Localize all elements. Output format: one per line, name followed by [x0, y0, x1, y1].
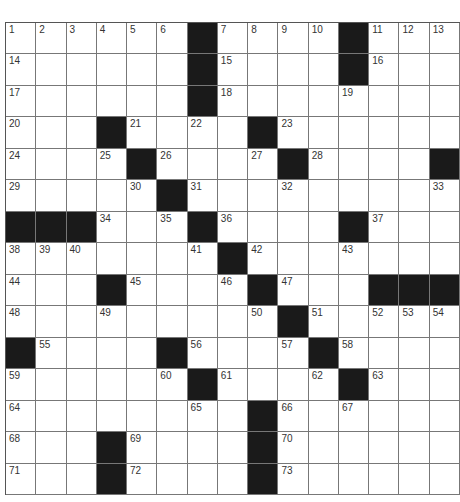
grid-cell[interactable]	[278, 369, 308, 400]
grid-cell[interactable]: 3	[67, 23, 97, 54]
grid-cell[interactable]	[430, 86, 460, 117]
grid-cell[interactable]	[97, 180, 127, 211]
grid-cell[interactable]	[369, 338, 399, 369]
grid-cell[interactable]	[309, 243, 339, 274]
grid-cell[interactable]	[218, 180, 248, 211]
grid-cell[interactable]: 6	[157, 23, 187, 54]
grid-cell[interactable]	[218, 117, 248, 148]
grid-cell[interactable]: 70	[278, 432, 308, 463]
grid-cell[interactable]	[339, 464, 369, 495]
grid-cell[interactable]	[309, 117, 339, 148]
grid-cell[interactable]: 16	[369, 54, 399, 85]
grid-cell[interactable]: 45	[127, 275, 157, 306]
grid-cell[interactable]	[97, 54, 127, 85]
grid-cell[interactable]: 50	[248, 306, 278, 337]
grid-cell[interactable]	[127, 306, 157, 337]
grid-cell[interactable]	[430, 54, 460, 85]
grid-cell[interactable]	[36, 306, 66, 337]
grid-cell[interactable]: 13	[430, 23, 460, 54]
grid-cell[interactable]: 73	[278, 464, 308, 495]
grid-cell[interactable]: 23	[278, 117, 308, 148]
grid-cell[interactable]: 56	[188, 338, 218, 369]
grid-cell[interactable]	[67, 306, 97, 337]
grid-cell[interactable]: 63	[369, 369, 399, 400]
grid-cell[interactable]: 26	[157, 149, 187, 180]
grid-cell[interactable]: 7	[218, 23, 248, 54]
grid-cell[interactable]	[309, 86, 339, 117]
grid-cell[interactable]	[97, 86, 127, 117]
grid-cell[interactable]	[248, 54, 278, 85]
grid-cell[interactable]: 38	[6, 243, 36, 274]
grid-cell[interactable]	[369, 117, 399, 148]
grid-cell[interactable]: 60	[157, 369, 187, 400]
grid-cell[interactable]	[399, 86, 429, 117]
grid-cell[interactable]	[218, 432, 248, 463]
grid-cell[interactable]	[97, 243, 127, 274]
grid-cell[interactable]	[309, 180, 339, 211]
grid-cell[interactable]: 12	[399, 23, 429, 54]
grid-cell[interactable]: 40	[67, 243, 97, 274]
grid-cell[interactable]	[67, 149, 97, 180]
grid-cell[interactable]	[430, 369, 460, 400]
grid-cell[interactable]	[369, 86, 399, 117]
grid-cell[interactable]: 36	[218, 212, 248, 243]
grid-cell[interactable]	[399, 117, 429, 148]
grid-cell[interactable]: 28	[309, 149, 339, 180]
grid-cell[interactable]	[157, 401, 187, 432]
grid-cell[interactable]	[97, 401, 127, 432]
grid-cell[interactable]: 61	[218, 369, 248, 400]
grid-cell[interactable]: 9	[278, 23, 308, 54]
grid-cell[interactable]: 67	[339, 401, 369, 432]
grid-cell[interactable]	[369, 432, 399, 463]
grid-cell[interactable]	[399, 54, 429, 85]
grid-cell[interactable]	[36, 369, 66, 400]
grid-cell[interactable]	[127, 338, 157, 369]
grid-cell[interactable]: 15	[218, 54, 248, 85]
grid-cell[interactable]	[218, 464, 248, 495]
grid-cell[interactable]	[127, 369, 157, 400]
grid-cell[interactable]	[369, 464, 399, 495]
grid-cell[interactable]	[430, 464, 460, 495]
grid-cell[interactable]	[157, 86, 187, 117]
grid-cell[interactable]	[188, 306, 218, 337]
grid-cell[interactable]: 59	[6, 369, 36, 400]
grid-cell[interactable]	[188, 149, 218, 180]
grid-cell[interactable]	[67, 54, 97, 85]
grid-cell[interactable]	[67, 86, 97, 117]
grid-cell[interactable]: 39	[36, 243, 66, 274]
grid-cell[interactable]	[67, 401, 97, 432]
grid-cell[interactable]	[218, 149, 248, 180]
grid-cell[interactable]: 55	[36, 338, 66, 369]
grid-cell[interactable]	[157, 432, 187, 463]
grid-cell[interactable]	[399, 212, 429, 243]
grid-cell[interactable]	[36, 117, 66, 148]
grid-cell[interactable]	[399, 464, 429, 495]
grid-cell[interactable]: 24	[6, 149, 36, 180]
grid-cell[interactable]	[36, 86, 66, 117]
grid-cell[interactable]	[399, 243, 429, 274]
grid-cell[interactable]: 37	[369, 212, 399, 243]
grid-cell[interactable]	[127, 401, 157, 432]
grid-cell[interactable]	[157, 243, 187, 274]
grid-cell[interactable]: 51	[309, 306, 339, 337]
grid-cell[interactable]: 44	[6, 275, 36, 306]
grid-cell[interactable]	[36, 180, 66, 211]
grid-cell[interactable]	[278, 54, 308, 85]
grid-cell[interactable]: 48	[6, 306, 36, 337]
grid-cell[interactable]	[399, 401, 429, 432]
grid-cell[interactable]	[309, 54, 339, 85]
grid-cell[interactable]: 46	[218, 275, 248, 306]
grid-cell[interactable]	[97, 369, 127, 400]
grid-cell[interactable]	[430, 401, 460, 432]
grid-cell[interactable]: 20	[6, 117, 36, 148]
grid-cell[interactable]: 64	[6, 401, 36, 432]
grid-cell[interactable]: 27	[248, 149, 278, 180]
grid-cell[interactable]	[430, 243, 460, 274]
grid-cell[interactable]: 72	[127, 464, 157, 495]
grid-cell[interactable]	[36, 149, 66, 180]
grid-cell[interactable]	[248, 180, 278, 211]
grid-cell[interactable]: 25	[97, 149, 127, 180]
grid-cell[interactable]: 65	[188, 401, 218, 432]
grid-cell[interactable]: 33	[430, 180, 460, 211]
grid-cell[interactable]	[339, 180, 369, 211]
